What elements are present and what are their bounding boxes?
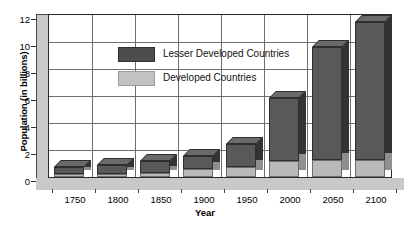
- bar-segment-developed: [355, 160, 385, 177]
- bar-segment-lesser-developed: [312, 47, 342, 160]
- bar-side-lesser-developed: [385, 15, 392, 153]
- bar-segment-lesser-developed: [140, 161, 170, 173]
- bar-segment-developed: [54, 174, 84, 177]
- wall-floor: [36, 178, 404, 190]
- plot-canvas: [48, 14, 392, 178]
- bar-group: [226, 144, 256, 177]
- x-tick-mark-5: [267, 189, 268, 193]
- x-tick-mark-7: [353, 189, 354, 193]
- bar-side-developed: [127, 167, 134, 170]
- bar-side-developed: [256, 160, 263, 170]
- bar-segment-developed: [269, 161, 299, 177]
- y-tick-label-8: 8: [8, 68, 30, 79]
- bar-segment-lesser-developed: [54, 167, 84, 175]
- bar-segment-lesser-developed: [97, 165, 127, 174]
- bar-side-lesser-developed: [342, 40, 349, 153]
- bar-segment-lesser-developed: [226, 144, 256, 166]
- bar-side-developed: [170, 166, 177, 170]
- legend-label-developed: Developed Countries: [163, 72, 256, 83]
- legend-swatch-lesser-developed: [118, 47, 155, 62]
- bar-top-face: [54, 160, 91, 167]
- y-tick-label-0: 0: [8, 176, 30, 187]
- bar-top-face: [269, 91, 306, 98]
- bar-side-developed: [299, 154, 306, 170]
- bar-group: [140, 161, 170, 177]
- bar-group: [54, 167, 84, 177]
- y-tick-label-12: 12: [8, 14, 30, 25]
- x-tick-mark-1: [95, 189, 96, 193]
- y-tick-label-2: 2: [8, 149, 30, 160]
- bar-top-face: [312, 40, 349, 47]
- x-tick-label-2100: 2100: [353, 194, 399, 205]
- population-bar-chart: Population (in billions) 12 10 8 6 4 2 0: [0, 0, 410, 235]
- x-tick-mark-6: [310, 189, 311, 193]
- bar-segment-lesser-developed: [269, 98, 299, 162]
- x-tick-label-1800: 1800: [95, 194, 141, 205]
- x-tick-label-1850: 1850: [138, 194, 184, 205]
- x-tick-label-2050: 2050: [310, 194, 356, 205]
- bar-side-developed: [342, 153, 349, 170]
- legend-label-lesser-developed: Lesser Developed Countries: [163, 48, 289, 59]
- x-tick-mark-0: [52, 189, 53, 193]
- bar-group: [183, 156, 213, 177]
- bar-segment-lesser-developed: [183, 156, 213, 169]
- bar-group: [269, 98, 299, 177]
- x-tick-mark-4: [224, 189, 225, 193]
- bar-series-container: [49, 15, 391, 177]
- y-tick-label-6: 6: [8, 95, 30, 106]
- bar-segment-developed: [97, 174, 127, 177]
- y-tick-label-10: 10: [8, 41, 30, 52]
- bar-side-developed: [84, 167, 91, 170]
- plot-area: Lesser Developed Countries Developed Cou…: [36, 14, 404, 190]
- bar-segment-lesser-developed: [355, 22, 385, 160]
- bar-side-developed: [213, 162, 220, 170]
- bar-group: [97, 165, 127, 177]
- bar-group: [312, 47, 342, 177]
- legend-swatch-developed: [118, 71, 155, 86]
- x-tick-label-1750: 1750: [52, 194, 98, 205]
- x-tick-mark-2: [138, 189, 139, 193]
- x-tick-label-1950: 1950: [224, 194, 270, 205]
- bar-group: [355, 22, 385, 177]
- bar-segment-developed: [312, 160, 342, 177]
- x-axis-title: Year: [0, 207, 410, 218]
- x-tick-label-1900: 1900: [181, 194, 227, 205]
- bar-side-developed: [385, 153, 392, 170]
- bar-side-lesser-developed: [299, 91, 306, 155]
- x-tick-mark-8: [396, 189, 397, 193]
- y-tick-label-4: 4: [8, 122, 30, 133]
- x-tick-label-2000: 2000: [267, 194, 313, 205]
- bar-segment-developed: [140, 173, 170, 177]
- x-tick-mark-3: [181, 189, 182, 193]
- bar-segment-developed: [183, 169, 213, 177]
- bar-segment-developed: [226, 167, 256, 177]
